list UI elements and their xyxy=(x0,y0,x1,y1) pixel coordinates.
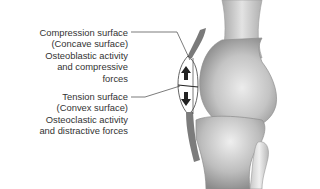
label-line: Osteoclastic activity xyxy=(39,114,128,125)
label-line: and compressive xyxy=(39,61,128,72)
compression-surface-label: Compression surface (Concave surface) Os… xyxy=(39,27,128,84)
femur-condyle xyxy=(200,38,277,129)
quadriceps-tendon xyxy=(186,28,206,60)
tension-surface-label: Tension surface (Convex surface) Osteocl… xyxy=(39,91,128,137)
label-line: (Concave surface) xyxy=(39,38,128,49)
label-line: Tension surface xyxy=(39,91,128,102)
label-line: Osteoblastic activity xyxy=(39,50,128,61)
tension-leader-line xyxy=(131,86,180,97)
compression-leader-line xyxy=(131,32,190,60)
label-line: (Convex surface) xyxy=(39,102,128,113)
label-line: Compression surface xyxy=(39,27,128,38)
label-line: and distractive forces xyxy=(39,125,128,136)
label-line: forces xyxy=(39,73,128,84)
